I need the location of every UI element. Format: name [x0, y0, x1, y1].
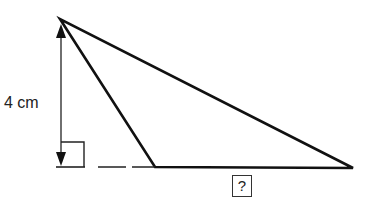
arrow-down-icon: [56, 152, 66, 166]
height-label: 4 cm: [4, 94, 39, 112]
unknown-base-box: ?: [232, 175, 252, 197]
triangle-diagram: [0, 0, 375, 216]
triangle: [60, 19, 353, 168]
